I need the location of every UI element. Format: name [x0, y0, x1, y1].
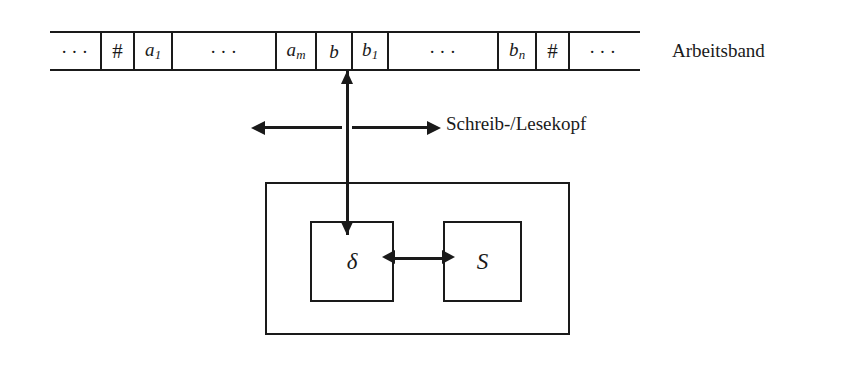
turing-machine-diagram: ···#a1···ambb1···bn#··· Arbeitsband Schr… — [0, 0, 847, 370]
arrow-shaft — [394, 257, 443, 260]
tape-cell-symbol: # — [547, 41, 558, 62]
tape-cell-ellipsis: ··· — [426, 42, 460, 61]
arrow-head-left-icon — [382, 250, 395, 264]
tape-cell-ellipsis: ··· — [58, 42, 92, 61]
tape-cell: bn — [497, 33, 535, 69]
arrow-head-left-icon — [251, 121, 265, 135]
read-write-head-label: Schreib-/Lesekopf — [446, 113, 586, 135]
tape-cell-symbol: b1 — [362, 40, 378, 63]
tape-cell-symbol: # — [112, 41, 123, 62]
tape-cell-ellipsis: ··· — [207, 42, 241, 61]
tape-cell-symbol: a1 — [145, 40, 161, 63]
tape-cell: # — [535, 33, 568, 69]
tape-cell: # — [100, 33, 133, 69]
tape-cell-symbol: am — [286, 40, 305, 63]
tape-cell-subscript: m — [296, 47, 305, 62]
tape-cell: ··· — [568, 33, 636, 69]
arrow-head-right-icon — [427, 121, 441, 135]
tape-cell: ··· — [50, 33, 100, 69]
arrow-head-right-icon — [442, 250, 455, 264]
tape-cell-ellipsis: ··· — [586, 42, 620, 61]
head-move-left-arrow — [264, 126, 342, 129]
work-tape: ···#a1···ambb1···bn#··· — [50, 31, 640, 71]
head-move-right-arrow — [352, 126, 428, 129]
tape-cell-subscript: 1 — [372, 47, 378, 62]
tape-cell-symbol: b — [329, 42, 339, 61]
tape-cell-subscript: n — [519, 47, 525, 62]
tape-cell: ··· — [171, 33, 275, 69]
tape-cell: b1 — [351, 33, 387, 69]
tape-cell: ··· — [387, 33, 497, 69]
work-tape-label: Arbeitsband — [672, 40, 765, 62]
tape-cell-subscript: 1 — [155, 47, 161, 62]
tape-cell-symbol: bn — [509, 40, 525, 63]
tape-cell: b — [315, 33, 351, 69]
delta-state-link-arrow — [394, 255, 443, 261]
tape-cell: am — [275, 33, 315, 69]
tape-cell: a1 — [133, 33, 171, 69]
arrow-head-up-icon — [341, 71, 353, 84]
